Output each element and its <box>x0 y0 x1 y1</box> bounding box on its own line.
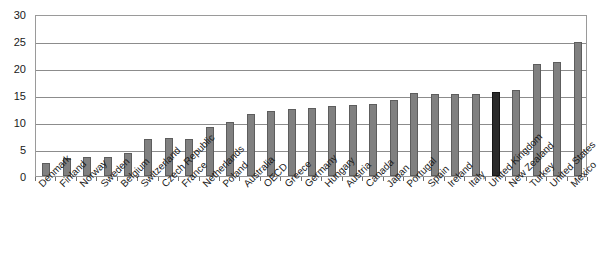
bar <box>288 109 296 176</box>
bars-group <box>36 16 586 176</box>
bar <box>451 94 459 176</box>
bar <box>553 62 561 176</box>
y-axis-tick-label: 25 <box>4 37 26 48</box>
bar <box>492 92 500 176</box>
y-axis-tick-label: 10 <box>4 118 26 129</box>
bar <box>472 94 480 176</box>
bar <box>410 93 418 176</box>
x-axis-labels: DenmarkFinlandNorwaySwedenBelgiumSwitzer… <box>35 182 593 260</box>
plot-area <box>35 15 587 177</box>
y-axis-tick-label: 20 <box>4 64 26 75</box>
y-axis-tick-label: 5 <box>4 145 26 156</box>
y-axis-tick-label: 30 <box>4 10 26 21</box>
y-axis: 051015202530 <box>0 0 26 260</box>
y-axis-tick-label: 0 <box>4 172 26 183</box>
y-axis-tick-label: 15 <box>4 91 26 102</box>
